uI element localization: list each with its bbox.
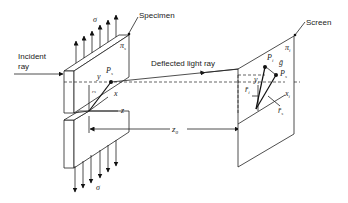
x-axis-label: x xyxy=(113,89,118,98)
incident-ray-label-line1: Incident xyxy=(18,52,47,61)
sigma-top-label: σ xyxy=(93,15,98,24)
incident-ray-label-line2: ray xyxy=(18,62,29,71)
screen-leader xyxy=(295,22,305,35)
deflected-ray-label: Deflected light ray xyxy=(151,59,215,68)
specimen-leader xyxy=(129,17,138,33)
z0-label: z0 xyxy=(171,124,179,135)
rs-specimen-label: r̄s xyxy=(92,89,96,94)
screen-leader-dot xyxy=(294,34,297,37)
deflected-ray-segment xyxy=(200,69,238,73)
specimen-lower-block xyxy=(64,111,129,168)
specimen-leader-dot xyxy=(128,33,131,36)
specimen-label: Specimen xyxy=(139,11,175,20)
y-axis-label: y xyxy=(96,72,101,81)
screen-label: Screen xyxy=(306,18,331,27)
sigma-bottom-label: σ xyxy=(96,183,101,192)
g-label: ḡ xyxy=(279,58,283,67)
caustics-diagram: σ σ Specimen πs Incident ray y Ps Deflec… xyxy=(0,0,348,203)
screen-plane xyxy=(238,36,294,167)
